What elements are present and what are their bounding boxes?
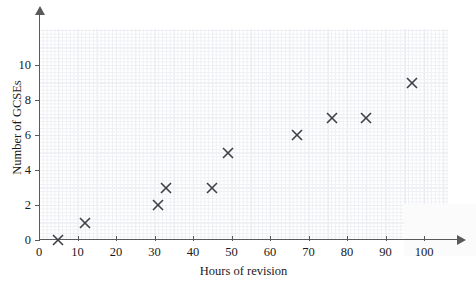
x-tick-label: 40 — [187, 246, 200, 259]
x-tick-label: 30 — [148, 246, 161, 259]
scatter-chart: 0102030405060708090100 0246810 Hours of … — [0, 0, 476, 286]
data-point-marker — [221, 146, 234, 159]
y-tick-mark — [35, 170, 40, 171]
x-tick-mark — [386, 236, 387, 241]
x-tick-label: 90 — [379, 246, 392, 259]
x-tick-label: 60 — [264, 246, 277, 259]
x-tick-label: 10 — [71, 246, 84, 259]
data-point-marker — [160, 181, 173, 194]
x-axis-title: Hours of revision — [39, 264, 448, 279]
data-point-marker — [325, 111, 338, 124]
y-tick-mark — [35, 100, 40, 101]
x-tick-label: 80 — [341, 246, 354, 259]
x-tick-mark — [347, 236, 348, 241]
data-point-marker — [52, 234, 65, 247]
x-tick-label: 70 — [302, 246, 315, 259]
x-tick-label: 20 — [110, 246, 123, 259]
y-tick-mark — [35, 65, 40, 66]
y-tick-mark — [35, 205, 40, 206]
y-axis-arrow-icon — [35, 6, 45, 15]
data-point-marker — [206, 181, 219, 194]
x-axis-line — [39, 239, 459, 240]
plot-area-grid — [39, 29, 448, 240]
x-tick-mark — [78, 236, 79, 241]
x-tick-mark — [424, 236, 425, 241]
data-point-marker — [152, 199, 165, 212]
data-point-marker — [290, 129, 303, 142]
data-point-marker — [406, 76, 419, 89]
y-axis-title-wrap: Number of GCSEs — [0, 0, 30, 240]
x-tick-mark — [116, 236, 117, 241]
x-tick-label: 50 — [225, 246, 238, 259]
y-tick-mark — [35, 135, 40, 136]
data-point-marker — [360, 111, 373, 124]
y-tick-mark — [35, 240, 40, 241]
x-tick-mark — [270, 236, 271, 241]
x-tick-label: 100 — [415, 246, 434, 259]
y-axis-title: Number of GCSEs — [10, 58, 25, 198]
x-tick-label: 0 — [36, 246, 42, 259]
x-tick-mark — [155, 236, 156, 241]
x-tick-mark — [309, 236, 310, 241]
data-point-marker — [79, 216, 92, 229]
x-axis-arrow-icon — [457, 235, 466, 245]
x-tick-mark — [232, 236, 233, 241]
x-tick-mark — [193, 236, 194, 241]
